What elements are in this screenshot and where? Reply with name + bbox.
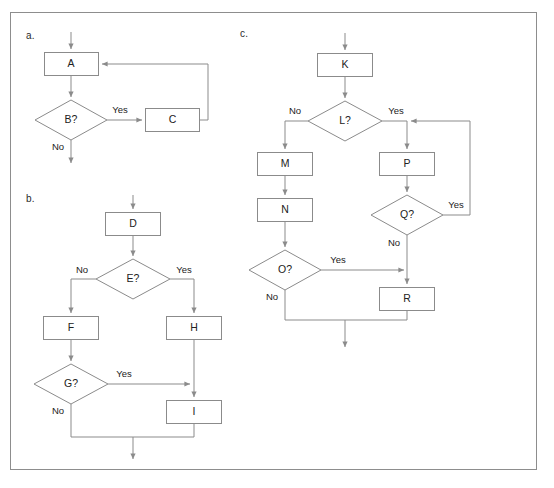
edge-label-e-no: No <box>76 264 88 275</box>
panel-a-group: A B? Yes C No <box>35 32 208 163</box>
node-g-label: G? <box>64 377 78 389</box>
edge-label-l-yes: Yes <box>388 105 404 116</box>
panel-b-group: D E? No Yes F H G? Yes I No <box>34 195 222 459</box>
edge-label-q-no: No <box>388 237 400 248</box>
node-b-label: B? <box>65 113 78 125</box>
node-p-label: P <box>403 157 410 169</box>
edge-label-l-no: No <box>289 105 301 116</box>
node-d-label: D <box>129 217 137 229</box>
edge-label-b-no: No <box>52 141 64 152</box>
node-m-label: M <box>281 157 290 169</box>
edge-label-e-yes: Yes <box>176 264 192 275</box>
node-q-label: Q? <box>400 208 414 220</box>
node-k-label: K <box>341 58 348 70</box>
edge-label-o-yes: Yes <box>330 254 346 265</box>
node-n-label: N <box>281 203 289 215</box>
edge-l-no-to-m <box>285 121 308 149</box>
edge-label-o-no: No <box>266 291 278 302</box>
node-e-label: E? <box>127 272 140 284</box>
edge-l-yes-to-p <box>382 121 407 149</box>
edge-e-no-to-f <box>71 279 96 313</box>
edge-label-g-yes: Yes <box>116 368 132 379</box>
node-r-label: R <box>403 292 411 304</box>
edge-e-yes-to-h <box>170 279 194 313</box>
edge-label-q-yes: Yes <box>448 199 464 210</box>
flowchart-canvas: A B? Yes C No D E? No Yes F <box>0 0 554 488</box>
panel-c-group: K L? No Yes M N O? Yes No P Q? <box>249 33 470 347</box>
node-a-label: A <box>67 57 74 69</box>
node-c-label: C <box>169 113 177 125</box>
edge-label-b-yes: Yes <box>112 104 128 115</box>
node-i-label: I <box>193 405 196 417</box>
flowchart-figure: a. b. c. A B? Yes C No <box>0 0 554 488</box>
edge-label-g-no: No <box>52 405 64 416</box>
node-o-label: O? <box>278 263 292 275</box>
node-f-label: F <box>68 321 74 333</box>
node-h-label: H <box>190 321 198 333</box>
node-l-label: L? <box>339 114 351 126</box>
